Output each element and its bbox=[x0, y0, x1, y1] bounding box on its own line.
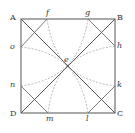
arc-h bbox=[67, 46, 115, 66]
label-h: h bbox=[117, 42, 122, 50]
arc-k bbox=[67, 66, 115, 86]
label-f: f bbox=[46, 9, 49, 17]
arc-n bbox=[21, 66, 67, 86]
label-m: m bbox=[46, 115, 54, 123]
geometry-diagram bbox=[0, 0, 135, 133]
arc-l bbox=[67, 66, 88, 113]
label-k: k bbox=[117, 81, 122, 89]
label-l: l bbox=[86, 115, 89, 123]
label-c: C bbox=[117, 110, 123, 118]
label-b: B bbox=[117, 14, 123, 22]
label-n: n bbox=[10, 81, 15, 89]
label-d: D bbox=[10, 110, 16, 118]
label-g: g bbox=[85, 9, 90, 17]
arc-g bbox=[67, 19, 88, 66]
label-e: e bbox=[64, 56, 69, 64]
label-a: A bbox=[10, 14, 16, 22]
label-o: o bbox=[10, 43, 15, 51]
